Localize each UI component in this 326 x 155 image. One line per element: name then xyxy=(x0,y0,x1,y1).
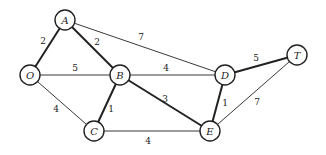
edge-weight-b-c: 1 xyxy=(108,104,114,114)
node-label: C xyxy=(90,126,98,137)
edge-weight-o-b: 5 xyxy=(72,63,78,73)
edge-weight-c-e: 4 xyxy=(145,136,151,146)
edge-a-d xyxy=(65,20,225,75)
node-d: D xyxy=(215,65,235,85)
node-label: E xyxy=(205,126,214,137)
edge-weight-b-e: 3 xyxy=(162,94,168,104)
node-c: C xyxy=(84,121,104,141)
node-label: A xyxy=(60,15,68,26)
edge-weight-d-e: 1 xyxy=(222,98,228,108)
edges-group xyxy=(30,20,297,131)
edge-weight-o-a: 2 xyxy=(40,36,46,46)
node-t: T xyxy=(287,45,307,65)
graph-diagram: 227545413417 AOBDTCE xyxy=(0,0,326,155)
edge-weight-d-t: 5 xyxy=(253,53,259,63)
nodes-group: AOBDTCE xyxy=(20,10,307,141)
node-a: A xyxy=(55,10,75,30)
node-label: D xyxy=(220,70,229,81)
node-o: O xyxy=(20,65,40,85)
node-e: E xyxy=(200,121,220,141)
edge-weight-o-c: 4 xyxy=(53,104,59,114)
node-label: B xyxy=(115,70,123,81)
edge-weight-a-b: 2 xyxy=(94,37,100,47)
edge-weight-b-d: 4 xyxy=(163,63,169,73)
edge-weight-e-t: 7 xyxy=(254,97,260,107)
node-label: O xyxy=(26,70,34,81)
edge-weight-a-d: 7 xyxy=(138,32,144,42)
node-b: B xyxy=(110,65,130,85)
edge-o-c xyxy=(30,75,94,131)
